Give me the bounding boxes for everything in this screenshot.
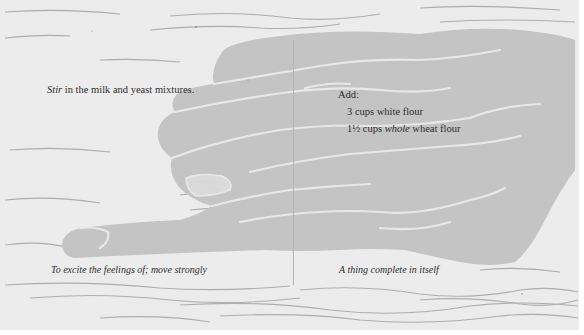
ingredient-name-rest: wheat flour	[410, 123, 461, 134]
add-ingredients-block: Add: 3 cups white flour 1½ cups whole wh…	[338, 86, 460, 137]
ingredient-name: white flour	[374, 106, 423, 117]
hand-linocut-icon	[0, 0, 579, 330]
ingredient-qty: 3 cups	[347, 106, 374, 117]
stir-instruction: Stir in the milk and yeast mixtures.	[47, 84, 194, 95]
ingredient-qty: 1½ cups	[347, 123, 382, 134]
thumb-shape	[186, 174, 231, 196]
book-spread: Stir in the milk and yeast mixtures. Add…	[0, 0, 579, 330]
stir-emphasis: Stir	[47, 84, 62, 95]
stir-rest: in the milk and yeast mixtures.	[62, 84, 194, 95]
left-caption: To excite the feelings of; move strongly	[51, 264, 207, 275]
hand-shape	[62, 29, 575, 265]
ingredient-item: 3 cups white flour	[338, 103, 460, 120]
add-heading: Add:	[338, 86, 460, 103]
ingredient-emphasis: whole	[385, 123, 410, 134]
page-gutter-line	[293, 40, 294, 285]
right-caption: A thing complete in itself	[339, 264, 439, 275]
ingredient-item: 1½ cups whole wheat flour	[338, 120, 460, 137]
